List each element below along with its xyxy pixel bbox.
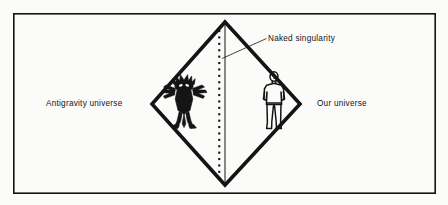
label-our-universe: Our universe bbox=[317, 100, 367, 108]
figure-root: Antigravity universe Our universe Naked … bbox=[0, 0, 448, 205]
singularity-dot-column bbox=[218, 30, 220, 179]
label-naked-singularity: Naked singularity bbox=[268, 35, 335, 43]
human-figure-outline bbox=[263, 72, 284, 129]
label-antigravity-universe: Antigravity universe bbox=[46, 100, 122, 108]
